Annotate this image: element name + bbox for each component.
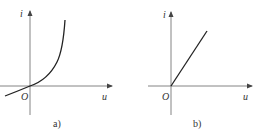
panel-b: i O u b) — [148, 9, 252, 130]
panel-b-line — [171, 31, 207, 86]
panel-b-y-label: i — [163, 9, 166, 20]
panel-a-x-label: u — [102, 91, 107, 102]
panel-b-x-label: u — [243, 91, 248, 102]
figure-canvas: i O u a) i O u b) — [0, 0, 261, 135]
panel-a-curve — [5, 20, 65, 96]
panel-b-origin-label: O — [162, 91, 169, 102]
panel-a-y-label: i — [20, 8, 23, 19]
panel-a-origin-label: O — [21, 91, 28, 102]
panel-b-caption: b) — [193, 118, 201, 130]
panel-a: i O u a) — [0, 8, 112, 130]
panel-a-caption: a) — [53, 118, 61, 130]
